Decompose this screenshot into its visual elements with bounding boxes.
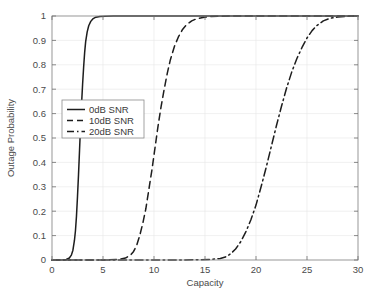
y-tick-label: 0.5 (33, 132, 46, 143)
y-tick-label: 0.4 (33, 157, 46, 168)
x-tick-label: 30 (353, 264, 364, 275)
y-tick-label: 0.6 (33, 108, 46, 119)
legend-label-10db-snr: 10dB SNR (89, 115, 134, 126)
x-tick-label: 15 (200, 264, 211, 275)
x-tick-label: 5 (100, 264, 105, 275)
legend-label-20db-snr: 20dB SNR (89, 126, 134, 137)
legend-label-0db-snr: 0dB SNR (89, 104, 129, 115)
y-tick-label: 0.2 (33, 206, 46, 217)
y-tick-label: 0 (41, 254, 46, 265)
y-tick-label: 0.9 (33, 35, 46, 46)
y-tick-label: 0.7 (33, 84, 46, 95)
y-tick-label: 0.3 (33, 181, 46, 192)
x-tick-label: 20 (251, 264, 262, 275)
y-tick-label: 0.1 (33, 230, 46, 241)
outage-probability-chart: 05101520253000.10.20.30.40.50.60.70.80.9… (0, 0, 380, 296)
y-tick-label: 1 (41, 10, 46, 21)
x-tick-label: 0 (49, 264, 54, 275)
y-axis-title: Outage Probability (5, 99, 16, 177)
x-tick-label: 10 (149, 264, 160, 275)
x-tick-label: 25 (302, 264, 313, 275)
x-axis-title: Capacity (187, 277, 224, 288)
y-tick-label: 0.8 (33, 59, 46, 70)
figure-canvas: 05101520253000.10.20.30.40.50.60.70.80.9… (0, 0, 380, 296)
